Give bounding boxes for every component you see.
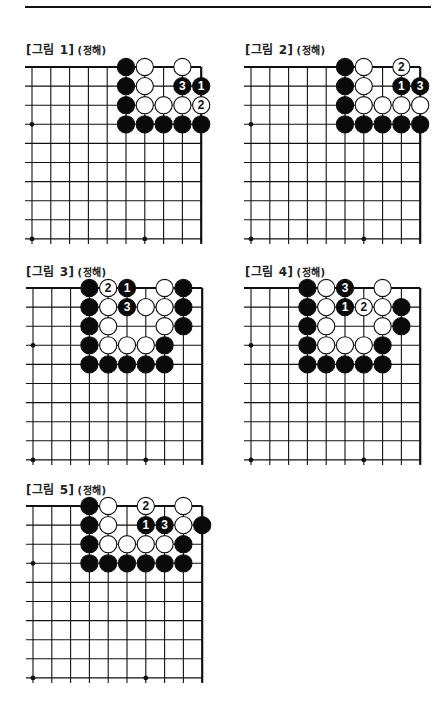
black-stone [137, 555, 154, 572]
move-number: 3 [179, 79, 186, 93]
white-stone [137, 536, 154, 553]
go-board: 213 [243, 57, 432, 249]
white-stone: 2 [100, 279, 117, 296]
black-stone [136, 116, 153, 133]
black-stone [336, 356, 353, 373]
black-stone [374, 116, 391, 133]
black-stone [393, 116, 410, 133]
move-number: 1 [198, 79, 205, 93]
black-stone: 1 [393, 78, 410, 95]
move-number: 2 [142, 499, 149, 513]
black-stone [81, 279, 98, 296]
white-stone [355, 58, 372, 75]
black-stone [374, 337, 391, 354]
figure-subtitle: (정해) [297, 45, 326, 56]
hoshi-point [249, 457, 254, 462]
black-stone [81, 356, 98, 373]
white-stone [355, 337, 372, 354]
white-stone [136, 58, 153, 75]
figure-subtitle: (정해) [78, 45, 107, 56]
black-stone: 3 [336, 279, 353, 296]
move-number: 2 [105, 281, 112, 295]
black-stone [393, 299, 410, 316]
white-stone [374, 318, 391, 335]
white-stone [156, 279, 173, 296]
hoshi-point [143, 675, 148, 680]
white-stone: 2 [393, 58, 410, 75]
black-stone [374, 356, 391, 373]
move-number: 1 [142, 518, 149, 532]
white-stone: 2 [193, 97, 210, 114]
white-stone [318, 279, 335, 296]
white-stone [355, 78, 372, 95]
move-number: 1 [124, 281, 131, 295]
white-stone [318, 337, 335, 354]
white-stone [412, 97, 429, 114]
black-stone [175, 555, 192, 572]
white-stone [137, 299, 154, 316]
black-stone [156, 337, 173, 354]
black-stone [100, 555, 117, 572]
black-stone [81, 337, 98, 354]
white-stone [156, 299, 173, 316]
figure-title: [그림 5](정해) [26, 480, 107, 497]
hoshi-point [249, 236, 254, 241]
black-stone [117, 78, 134, 95]
move-number: 1 [398, 79, 405, 93]
black-stone: 3 [156, 517, 173, 534]
hoshi-point [30, 122, 35, 127]
move-number: 2 [198, 98, 205, 112]
move-number: 1 [342, 300, 349, 314]
move-number: 3 [342, 281, 349, 295]
figure-number: [그림 3] [26, 265, 75, 279]
black-stone [81, 536, 98, 553]
black-stone [336, 58, 353, 75]
black-stone [118, 356, 135, 373]
hoshi-point [249, 122, 254, 127]
black-stone [412, 116, 429, 133]
black-stone [81, 517, 98, 534]
white-stone [336, 337, 353, 354]
black-stone [81, 497, 98, 514]
white-stone [155, 97, 172, 114]
white-stone [175, 497, 192, 514]
black-stone [117, 116, 134, 133]
white-stone [393, 97, 410, 114]
black-stone [117, 97, 134, 114]
black-stone [156, 356, 173, 373]
black-stone: 1 [118, 279, 135, 296]
move-number: 3 [124, 300, 131, 314]
move-number: 3 [417, 79, 424, 93]
hoshi-point [30, 236, 35, 241]
black-stone [299, 318, 316, 335]
black-stone [175, 318, 192, 335]
white-stone [318, 318, 335, 335]
figure-title: [그림 4](정해) [245, 262, 326, 279]
white-stone: 2 [355, 299, 372, 316]
black-stone [117, 58, 134, 75]
hoshi-point [31, 343, 36, 348]
black-stone [155, 116, 172, 133]
black-stone [393, 318, 410, 335]
hoshi-point [361, 236, 366, 241]
white-stone [374, 97, 391, 114]
white-stone [136, 78, 153, 95]
white-stone: 2 [137, 497, 154, 514]
figure-subtitle: (정해) [78, 267, 107, 278]
black-stone: 3 [118, 299, 135, 316]
figure-number: [그림 2] [245, 43, 294, 57]
figure-number: [그림 1] [26, 43, 75, 57]
white-stone [355, 97, 372, 114]
hoshi-point [31, 675, 36, 680]
black-stone [81, 299, 98, 316]
black-stone [175, 279, 192, 296]
white-stone [156, 318, 173, 335]
white-stone [137, 337, 154, 354]
black-stone [137, 356, 154, 373]
black-stone [81, 555, 98, 572]
go-board: 213 [25, 496, 214, 688]
move-number: 3 [161, 518, 168, 532]
hoshi-point [361, 457, 366, 462]
white-stone [175, 517, 192, 534]
black-stone [299, 337, 316, 354]
